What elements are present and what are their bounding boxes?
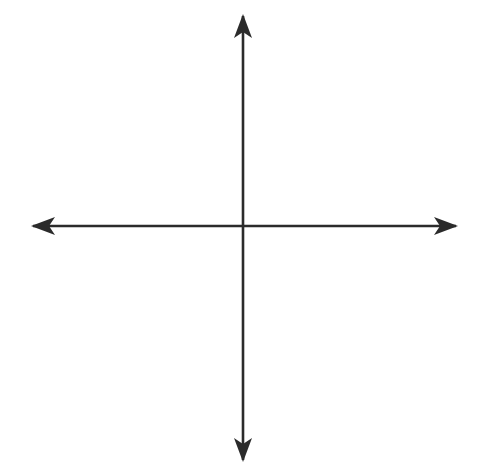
coordinate-plane-svg bbox=[0, 0, 481, 474]
figure-background bbox=[0, 0, 481, 474]
coordinate-plane-figure bbox=[0, 0, 481, 474]
